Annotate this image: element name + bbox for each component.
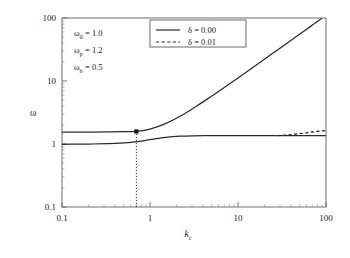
param-value: = 1.0 — [83, 28, 103, 38]
parameter-annotation: ωp = 1.2 — [74, 45, 103, 57]
x-tick-label: 0.1 — [56, 213, 67, 223]
y-tick-label: 100 — [43, 13, 57, 23]
marker-critical-point — [134, 129, 138, 133]
parameter-annotations: ω0 = 1.0ωp = 1.2ωb = 0.5 — [74, 28, 103, 74]
param-value: = 1.2 — [83, 45, 103, 55]
x-tick-label: 100 — [319, 213, 333, 223]
parameter-annotation: ωb = 0.5 — [74, 62, 103, 74]
x-tick-label: 1 — [148, 213, 153, 223]
data-markers — [134, 129, 138, 133]
x-axis-title-subscript: c — [189, 234, 192, 241]
chart-legend: δ = 0.00δ = 0.01 — [150, 20, 246, 47]
y-axis-title: ω — [30, 108, 36, 118]
y-tick-label: 0.1 — [45, 202, 56, 212]
param-value: = 0.5 — [83, 62, 103, 72]
dispersion-relation-chart: 0.1110100 0.1110100 ω kc ω0 = 1.0ωp = 1.… — [0, 0, 350, 258]
parameter-annotation: ω0 = 1.0 — [74, 28, 103, 40]
figure-container: 0.1110100 0.1110100 ω kc ω0 = 1.0ωp = 1.… — [0, 0, 350, 258]
y-tick-label: 10 — [47, 76, 57, 86]
legend-label: δ = 0.00 — [188, 25, 216, 35]
x-tick-label: 10 — [234, 213, 244, 223]
y-tick-label: 1 — [52, 139, 57, 149]
legend-label: δ = 0.01 — [188, 37, 216, 47]
